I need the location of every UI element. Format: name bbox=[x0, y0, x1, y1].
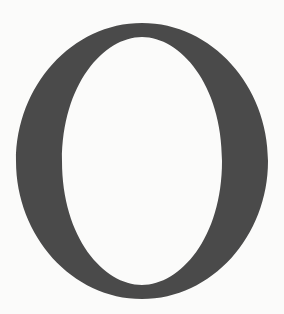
letter-o-icon bbox=[0, 0, 284, 314]
letter-o-shape bbox=[16, 23, 268, 299]
letter-o-graphic: O bbox=[0, 0, 284, 314]
